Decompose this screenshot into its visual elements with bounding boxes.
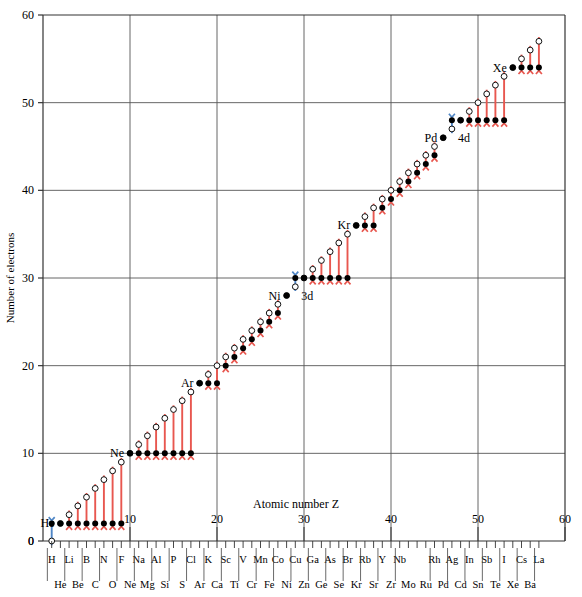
arrow-head [249, 342, 255, 345]
filled-dot-marker [223, 363, 229, 369]
element-label-Ar: Ar [194, 579, 206, 590]
filled-dot-marker [188, 450, 194, 456]
open-circle-marker [379, 196, 385, 202]
open-circle-markers [49, 38, 542, 543]
open-circle-marker [214, 363, 220, 369]
filled-dot-marker [432, 152, 438, 158]
filled-dot-marker [266, 319, 272, 325]
open-circle-marker [266, 310, 272, 316]
filled-dot-marker [458, 117, 464, 123]
arrow-head [405, 185, 411, 188]
arrow-head [449, 114, 455, 117]
filled-dot-marker [92, 520, 98, 526]
arrow-head [292, 272, 298, 275]
y-tick-label: 50 [22, 96, 34, 110]
filled-dot-marker [301, 275, 307, 281]
open-circle-marker [205, 372, 211, 378]
arrow-head [501, 123, 507, 126]
open-circle-marker [75, 503, 81, 509]
filled-dot-marker [475, 117, 481, 123]
arrow-head [519, 71, 525, 74]
filled-dot-marker [84, 520, 90, 526]
filled-dot-marker [519, 65, 525, 71]
arrow-head [310, 281, 316, 284]
filled-dot-marker [527, 65, 533, 71]
element-label-Ge: Ge [315, 579, 328, 590]
element-label-Sb: Sb [481, 554, 492, 565]
element-label-Be: Be [72, 579, 84, 590]
filled-dot-marker [258, 328, 264, 334]
filled-dot-marker [310, 275, 316, 281]
open-circle-marker [449, 126, 455, 132]
filled-dot-marker [162, 450, 168, 456]
open-circle-marker [171, 407, 177, 413]
element-label-Ni: Ni [281, 579, 292, 590]
arrow-head [118, 526, 124, 529]
filled-dot-marker [492, 117, 498, 123]
filled-dot-marker [66, 520, 72, 526]
filled-dot-marker [214, 380, 220, 386]
x-tick-label: 40 [385, 512, 397, 526]
arrow-head [423, 167, 429, 170]
arrow-head [345, 281, 351, 284]
element-label-N: N [100, 554, 108, 565]
arrow-head [66, 526, 72, 529]
open-circle-marker [162, 415, 168, 421]
y-tick-label: 20 [22, 359, 34, 373]
open-circle-marker [519, 56, 525, 62]
annotation-Ar: Ar [181, 376, 194, 390]
element-label-Se: Se [334, 579, 345, 590]
element-label-S: S [179, 579, 185, 590]
filled-dot-marker [423, 161, 429, 167]
filled-dot-marker [353, 222, 359, 228]
open-circle-marker [66, 512, 72, 518]
arrow-head [205, 386, 211, 389]
open-circle-marker [223, 354, 229, 360]
arrow-head [84, 526, 90, 529]
filled-dot-marker [75, 520, 81, 526]
open-circle-marker [466, 109, 472, 115]
filled-dot-marker [197, 380, 203, 386]
filled-dot-marker [327, 275, 333, 281]
open-circle-marker [527, 47, 533, 53]
open-circle-marker [484, 91, 490, 97]
element-label-Br: Br [342, 554, 353, 565]
arrow-head [371, 228, 377, 231]
element-label-Ba: Ba [524, 579, 536, 590]
arrow-head [144, 456, 150, 459]
arrow-head [110, 526, 116, 529]
arrow-head [188, 456, 194, 459]
element-label-Zn: Zn [298, 579, 310, 590]
open-circle-marker [406, 170, 412, 176]
element-label-V: V [239, 554, 247, 565]
arrow-head [379, 211, 385, 214]
filled-dot-marker [171, 450, 177, 456]
y-tick-label: 60 [22, 8, 34, 22]
arrow-head [136, 456, 142, 459]
y-tick-label: 10 [22, 446, 34, 460]
annotation-Pd: Pd [425, 131, 438, 145]
filled-dot-marker [292, 275, 298, 281]
filled-dot-marker [179, 450, 185, 456]
filled-dot-marker [336, 275, 342, 281]
element-label-I: I [502, 554, 506, 565]
open-circle-marker [493, 82, 499, 88]
filled-dot-marker [249, 336, 255, 342]
annotation-4d: 4d [458, 131, 470, 145]
filled-dot-marker [127, 450, 133, 456]
element-label-Te: Te [490, 579, 501, 590]
filled-dot-marker [536, 65, 542, 71]
filled-dot-marker [371, 222, 377, 228]
y-tick-label: 30 [22, 271, 34, 285]
element-label-H: H [48, 554, 56, 565]
open-circle-marker [84, 494, 90, 500]
arrow-head [466, 123, 472, 126]
arrow-head [92, 526, 98, 529]
arrow-head [484, 123, 490, 126]
element-label-O: O [109, 579, 117, 590]
annotation-Ne: Ne [110, 446, 124, 460]
filled-dot-marker [275, 310, 281, 316]
filled-dot-marker [379, 205, 385, 211]
filled-dot-marker [466, 117, 472, 123]
arrow-head [336, 281, 342, 284]
